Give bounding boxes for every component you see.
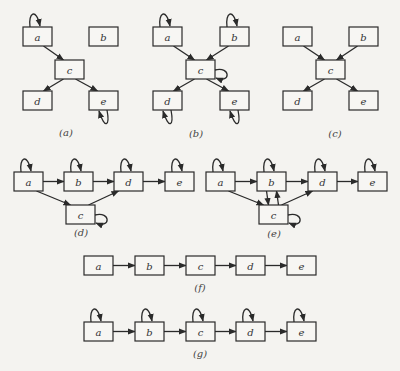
panel-c: abcde(c) — [283, 27, 378, 139]
node-label: a — [96, 261, 102, 272]
self-loop-b — [142, 309, 152, 322]
node-a: a — [206, 172, 235, 191]
node-b: b — [64, 172, 93, 191]
node-label: c — [271, 210, 277, 221]
edge-a-to-c — [304, 46, 325, 60]
node-label: c — [78, 210, 84, 221]
node-b: b — [220, 27, 249, 46]
node-label: e — [101, 96, 107, 107]
panel-g: abcde(g) — [84, 309, 316, 359]
edge-a-to-c — [174, 46, 195, 60]
node-e: e — [349, 91, 378, 110]
panel-b: abcde(b) — [153, 14, 249, 139]
node-a: a — [14, 172, 43, 191]
node-label: d — [319, 177, 325, 188]
edge-c-to-d — [282, 191, 313, 205]
edge-c-to-e — [207, 79, 229, 91]
node-label: a — [218, 177, 224, 188]
node-b: b — [89, 27, 118, 46]
node-label: e — [370, 177, 376, 188]
diagram-figure: abcde(a)abcde(b)abcde(c)abdec(d)abdec(e)… — [0, 0, 400, 371]
self-loop-c — [288, 214, 300, 224]
panel-caption: (c) — [328, 128, 342, 139]
node-e: e — [287, 322, 316, 341]
panel-a: abcde(a) — [23, 14, 118, 138]
node-label: a — [35, 32, 41, 43]
node-label: c — [198, 261, 204, 272]
node-e: e — [165, 172, 194, 191]
node-e: e — [287, 256, 316, 275]
self-loop-e — [172, 159, 182, 172]
self-loop-c — [193, 309, 203, 322]
node-e: e — [89, 91, 118, 110]
self-loop-a — [213, 159, 223, 172]
panel-f: abcde(f) — [84, 256, 316, 293]
node-c: c — [186, 322, 215, 341]
self-loop-a — [21, 159, 31, 172]
node-a: a — [84, 322, 113, 341]
node-label: a — [96, 327, 102, 338]
node-label: a — [295, 32, 301, 43]
self-loop-b — [264, 159, 274, 172]
edge-a-to-c — [44, 46, 64, 60]
node-label: b — [100, 32, 106, 43]
node-d: d — [283, 91, 312, 110]
node-c: c — [186, 256, 215, 275]
edge-a-to-c — [37, 191, 71, 205]
self-loop-c — [215, 69, 227, 79]
node-d: d — [308, 172, 337, 191]
node-label: d — [34, 96, 40, 107]
edge-b-to-c — [267, 191, 269, 205]
node-c: c — [259, 205, 288, 224]
self-loop-a — [30, 14, 40, 27]
node-label: e — [299, 327, 305, 338]
node-e: e — [220, 91, 249, 110]
node-label: c — [67, 65, 73, 76]
node-label: b — [360, 32, 366, 43]
node-b: b — [135, 322, 164, 341]
self-loop-d — [315, 159, 325, 172]
node-label: a — [165, 32, 171, 43]
self-loop-e — [365, 159, 375, 172]
self-loop-e — [99, 110, 108, 124]
node-label: a — [26, 177, 32, 188]
edge-c-to-d — [174, 79, 195, 91]
node-d: d — [153, 91, 182, 110]
edge-b-to-c — [207, 46, 229, 60]
self-loop-b — [227, 14, 237, 27]
node-a: a — [283, 27, 312, 46]
node-label: d — [247, 261, 253, 272]
node-c: c — [316, 60, 345, 79]
node-label: e — [361, 96, 367, 107]
node-label: c — [198, 327, 204, 338]
self-loop-d — [121, 159, 131, 172]
node-e: e — [358, 172, 387, 191]
node-label: e — [299, 261, 305, 272]
node-a: a — [23, 27, 52, 46]
node-label: b — [75, 177, 81, 188]
panel-caption: (g) — [193, 348, 207, 359]
edge-c-to-d — [44, 79, 64, 91]
node-label: e — [232, 96, 238, 107]
node-a: a — [153, 27, 182, 46]
edge-c-to-e — [76, 79, 98, 91]
self-loop-d — [163, 110, 172, 124]
node-b: b — [135, 256, 164, 275]
node-label: b — [146, 261, 152, 272]
node-b: b — [257, 172, 286, 191]
node-label: d — [125, 177, 131, 188]
node-b: b — [349, 27, 378, 46]
edge-c-to-e — [337, 79, 358, 91]
node-a: a — [84, 256, 113, 275]
self-loop-a — [160, 14, 170, 27]
node-c: c — [186, 60, 215, 79]
node-c: c — [55, 60, 84, 79]
node-label: b — [268, 177, 274, 188]
node-label: c — [328, 65, 334, 76]
panel-e: abdec(e) — [206, 159, 387, 239]
panel-caption: (e) — [267, 228, 281, 239]
edge-c-to-b — [277, 191, 279, 205]
node-d: d — [23, 91, 52, 110]
edge-b-to-c — [337, 46, 358, 60]
node-label: b — [146, 327, 152, 338]
